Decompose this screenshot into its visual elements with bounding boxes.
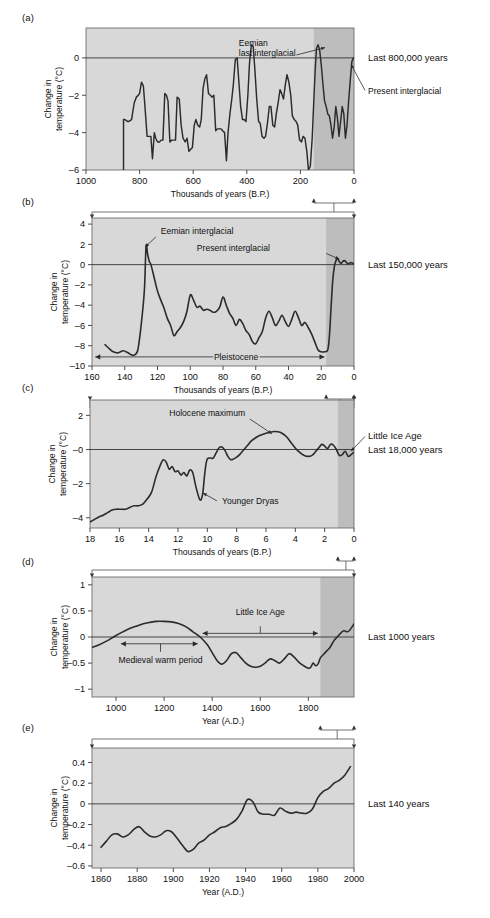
y-tick-label: –4 bbox=[69, 128, 79, 138]
y-axis-label-line2: temperature (°C) bbox=[60, 776, 70, 840]
y-tick-label: 0.5 bbox=[72, 606, 85, 616]
panel-e: (e)0.40.20–0.2–0.4–0.6186018801900192019… bbox=[0, 722, 490, 912]
x-tick-label: 140 bbox=[117, 372, 132, 382]
panel-d: (d)10.50–0.5–110001200140016001800Year (… bbox=[0, 556, 490, 722]
y-axis-label: Change intemperature (°C) bbox=[49, 260, 70, 324]
panel-b: (b)420–2–4–6–8–10160140120100806040200Th… bbox=[0, 196, 490, 382]
panel-c: (c)2–0–2–4181614121086420Thousands of ye… bbox=[0, 382, 490, 556]
y-tick-label: –6 bbox=[69, 165, 79, 175]
chart-panel-b: 420–2–4–6–8–10160140120100806040200Thous… bbox=[0, 196, 490, 382]
chart-panel-a: 0–2–4–610008006004002000Thousands of yea… bbox=[0, 12, 490, 196]
chart-panel-e: 0.40.20–0.2–0.4–0.6186018801900192019401… bbox=[0, 722, 490, 912]
x-tick-label: 1200 bbox=[154, 703, 174, 713]
y-axis-label-line1: Change in bbox=[49, 272, 59, 311]
y-tick-label: 0.2 bbox=[72, 778, 85, 788]
x-tick-label: 200 bbox=[293, 176, 308, 186]
plot-highlight-region bbox=[326, 218, 354, 366]
x-tick-label: 60 bbox=[251, 372, 261, 382]
present-interglacial-label: Present interglacial bbox=[368, 86, 441, 96]
x-tick-label: 1400 bbox=[202, 703, 222, 713]
y-axis-label-line1: Change in bbox=[49, 788, 59, 827]
present-interglacial-label: Present interglacial bbox=[197, 243, 270, 253]
x-tick-label: 18 bbox=[85, 534, 95, 544]
holocene-maximum-label: Holocene maximum bbox=[169, 408, 245, 418]
y-tick-label: 1 bbox=[80, 580, 85, 590]
x-tick-label: 14 bbox=[144, 534, 154, 544]
plot-highlight-region bbox=[338, 400, 354, 528]
y-axis-label: Change intemperature (°C) bbox=[47, 432, 68, 496]
panel-letter: (b) bbox=[22, 196, 34, 207]
eemian-label-line1: Eemian bbox=[239, 38, 268, 48]
chart-panel-c: 2–0–2–4181614121086420Thousands of years… bbox=[0, 382, 490, 556]
x-tick-label: 10 bbox=[202, 534, 212, 544]
x-tick-label: 1960 bbox=[271, 874, 291, 884]
y-tick-label: –8 bbox=[75, 341, 85, 351]
y-tick-label: –2 bbox=[75, 280, 85, 290]
y-axis-label-line1: Change in bbox=[47, 444, 57, 483]
eemian-interglacial-label: Eemian interglacial bbox=[161, 226, 234, 236]
y-tick-label: 4 bbox=[80, 219, 85, 229]
x-axis-label: Year (A.D.) bbox=[202, 887, 244, 897]
x-tick-label: 6 bbox=[263, 534, 268, 544]
x-tick-label: 2 bbox=[322, 534, 327, 544]
younger-dryas-label: Younger Dryas bbox=[222, 496, 279, 506]
pleistocene-label: Pleistocene bbox=[214, 352, 259, 362]
y-tick-label: 0 bbox=[80, 799, 85, 809]
x-tick-label: 4 bbox=[293, 534, 298, 544]
x-tick-label: 800 bbox=[132, 176, 147, 186]
chart-panel-d: 10.50–0.5–110001200140016001800Year (A.D… bbox=[0, 556, 490, 722]
x-tick-label: 120 bbox=[150, 372, 165, 382]
x-tick-label: 8 bbox=[234, 534, 239, 544]
little-ice-age-label: Little Ice Age bbox=[236, 607, 285, 617]
x-tick-label: 1000 bbox=[106, 703, 126, 713]
y-tick-label: –0.4 bbox=[67, 841, 85, 851]
x-tick-label: 600 bbox=[186, 176, 201, 186]
side-label-little-ice-age: Little Ice Age bbox=[368, 430, 422, 441]
panel-letter: (d) bbox=[22, 556, 34, 567]
y-tick-label: –0.6 bbox=[67, 861, 85, 871]
y-tick-label: –0 bbox=[73, 445, 83, 455]
panel-letter: (c) bbox=[22, 382, 34, 393]
x-tick-label: 1920 bbox=[199, 874, 219, 884]
y-tick-label: 0 bbox=[74, 53, 79, 63]
side-label-last-800000-years: Last 800,000 years bbox=[368, 52, 448, 63]
side-label-last-150000-years: Last 150,000 years bbox=[368, 259, 448, 270]
panel-a: (a)0–2–4–610008006004002000Thousands of … bbox=[0, 12, 490, 196]
y-tick-label: –10 bbox=[70, 361, 85, 371]
y-tick-label: –6 bbox=[75, 321, 85, 331]
y-tick-label: 2 bbox=[80, 240, 85, 250]
y-axis-label-line1: Change in bbox=[49, 617, 59, 656]
y-axis-label-line1: Change in bbox=[43, 79, 53, 118]
y-tick-label: –0.2 bbox=[67, 820, 85, 830]
y-tick-label: –2 bbox=[73, 479, 83, 489]
x-tick-label: 1980 bbox=[308, 874, 328, 884]
x-tick-label: 1900 bbox=[163, 874, 183, 884]
climate-temperature-figure: (a)0–2–4–610008006004002000Thousands of … bbox=[0, 0, 490, 918]
side-label-last-140-years: Last 140 years bbox=[368, 798, 430, 809]
x-tick-label: 16 bbox=[114, 534, 124, 544]
panel-letter: (e) bbox=[22, 722, 34, 733]
x-tick-label: 0 bbox=[351, 534, 356, 544]
x-tick-label: 400 bbox=[239, 176, 254, 186]
y-tick-label: –4 bbox=[73, 513, 83, 523]
y-tick-label: 0.4 bbox=[72, 758, 85, 768]
x-tick-label: 100 bbox=[183, 372, 198, 382]
side-label-last-18000-years: Last 18,000 years bbox=[368, 444, 443, 455]
x-tick-label: 0 bbox=[351, 372, 356, 382]
x-tick-label: 12 bbox=[173, 534, 183, 544]
y-axis-label: Change intemperature (°C) bbox=[43, 67, 64, 131]
y-tick-label: –2 bbox=[69, 91, 79, 101]
x-tick-label: 1860 bbox=[91, 874, 111, 884]
y-tick-label: –1 bbox=[75, 684, 85, 694]
side-label-last-1000-years: Last 1000 years bbox=[368, 631, 435, 642]
y-axis-label-line2: temperature (°C) bbox=[54, 67, 64, 131]
x-tick-label: 160 bbox=[84, 372, 99, 382]
y-axis-label-line2: temperature (°C) bbox=[58, 432, 68, 496]
x-tick-label: 40 bbox=[283, 372, 293, 382]
x-tick-label: 2000 bbox=[344, 874, 364, 884]
eemian-label-line2: last interglacial bbox=[239, 48, 296, 58]
x-tick-label: 0 bbox=[351, 176, 356, 186]
y-tick-label: 0 bbox=[80, 632, 85, 642]
plot-background bbox=[90, 400, 354, 528]
medieval-warm-period-label: Medieval warm period bbox=[118, 655, 202, 665]
